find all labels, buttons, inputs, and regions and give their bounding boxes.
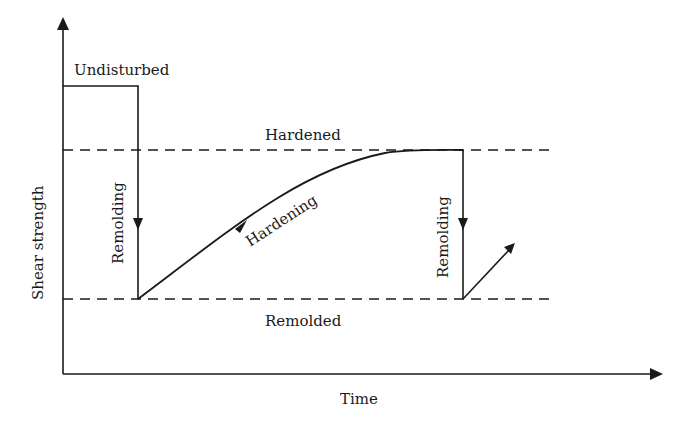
hardening-label: Hardening xyxy=(242,191,320,251)
remolding-label-1: Remolding xyxy=(109,182,127,264)
hardened-label: Hardened xyxy=(265,126,341,144)
x-axis-arrow-icon xyxy=(650,368,663,380)
shear-strength-diagram: Undisturbed Hardened Remolded Time Shear… xyxy=(0,0,680,432)
y-axis-arrow-icon xyxy=(57,17,69,30)
hardening-curve xyxy=(138,150,463,299)
y-axis-label: Shear strength xyxy=(29,185,47,300)
rehardening-arrow xyxy=(463,250,509,299)
remolding-label-2: Remolding xyxy=(434,196,452,278)
rehardening-arrow-icon xyxy=(504,243,515,254)
y-axis xyxy=(57,17,69,374)
x-axis-label: Time xyxy=(340,390,378,408)
remolding-arrow-icon-1 xyxy=(133,218,143,230)
remolded-label: Remolded xyxy=(265,312,342,330)
remolding-arrow-icon-2 xyxy=(458,218,468,230)
x-axis xyxy=(63,368,663,380)
undisturbed-label: Undisturbed xyxy=(74,61,170,79)
